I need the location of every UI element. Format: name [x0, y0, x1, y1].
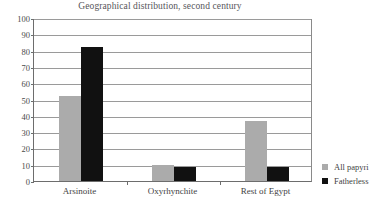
y-axis-tick-mark [31, 52, 34, 53]
bar [81, 47, 103, 181]
x-axis-tick-mark [220, 181, 221, 185]
y-axis-tick-label: 60 [22, 80, 31, 89]
y-axis-tick-mark [31, 133, 34, 134]
bar [59, 96, 81, 181]
bar-group [59, 19, 103, 181]
bar [267, 167, 289, 181]
y-axis-tick-label: 20 [22, 145, 31, 154]
y-axis-tick-label: 40 [22, 113, 31, 122]
y-axis-tick-label: 10 [22, 161, 31, 170]
y-axis-tick-mark [31, 166, 34, 167]
x-axis-category-label: Rest of Egypt [206, 186, 326, 196]
y-axis-tick-mark [31, 19, 34, 20]
bar [152, 165, 174, 181]
chart-legend: All papyriFatherless [322, 160, 369, 188]
legend-item[interactable]: All papyri [322, 160, 369, 174]
chart-title: Geographical distribution, second centur… [0, 1, 320, 11]
black-square-swatch [322, 178, 328, 184]
y-axis-tick-mark [31, 117, 34, 118]
bar-group [245, 19, 289, 181]
gray-square-swatch [322, 164, 328, 170]
y-axis-tick-mark [31, 68, 34, 69]
bar [174, 167, 196, 181]
legend-item-label: All papyri [334, 163, 369, 172]
y-axis-tick-mark [31, 35, 34, 36]
y-axis-tick-label: 50 [22, 96, 31, 105]
y-axis-tick-mark [31, 84, 34, 85]
y-axis-tick-label: 90 [22, 31, 31, 40]
x-axis-tick-mark [127, 181, 128, 185]
bar [245, 121, 267, 181]
y-axis-tick-mark [31, 182, 34, 183]
legend-item-label: Fatherless [334, 177, 368, 186]
y-axis-tick-mark [31, 149, 34, 150]
plot-area: 0102030405060708090100 [33, 19, 312, 182]
y-axis-tick-label: 80 [22, 47, 31, 56]
y-axis-tick-label: 70 [22, 64, 31, 73]
y-axis-tick-label: 0 [26, 178, 30, 187]
y-axis-tick-label: 30 [22, 129, 31, 138]
bar-chart: Geographical distribution, second centur… [0, 0, 387, 214]
y-axis-tick-label: 100 [17, 15, 30, 24]
legend-item[interactable]: Fatherless [322, 174, 369, 188]
y-axis-tick-mark [31, 101, 34, 102]
bar-group [152, 19, 196, 181]
